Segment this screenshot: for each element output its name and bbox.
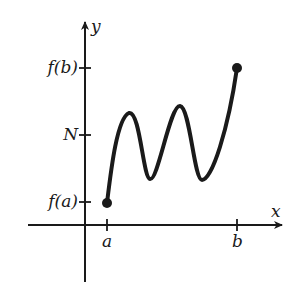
- y-axis-label: y: [91, 18, 101, 35]
- start-point: [102, 198, 112, 208]
- ivt-diagram: y x f(b) N f(a) a b: [0, 0, 291, 298]
- y-tick-label-n: N: [63, 126, 78, 143]
- y-tick-label-fb: f(b): [48, 59, 78, 76]
- y-tick-label-fa: f(a): [48, 193, 78, 210]
- x-tick-label-a: a: [102, 233, 112, 250]
- end-point: [232, 63, 242, 73]
- function-curve: [107, 68, 237, 203]
- plot-canvas: [0, 0, 291, 298]
- x-axis-label: x: [271, 203, 281, 220]
- x-tick-label-b: b: [232, 233, 243, 250]
